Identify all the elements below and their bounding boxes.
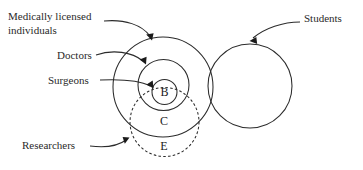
label-surgeons: Surgeons — [48, 74, 89, 86]
arrow-head-researchers — [123, 137, 130, 144]
label-medically-licensed-line1: Medically licensed — [8, 10, 92, 22]
leader-line-surgeons — [100, 80, 150, 86]
leader-line-researchers — [90, 140, 126, 147]
leader-line-doctors — [96, 52, 143, 61]
leader-line-students — [253, 22, 300, 38]
region-letter-e: E — [160, 139, 167, 153]
label-students: Students — [304, 12, 342, 24]
arrow-head-surgeons — [147, 80, 154, 88]
venn-diagram-canvas: Medically licensed individuals Doctors S… — [0, 0, 363, 170]
region-letter-b: B — [160, 85, 168, 99]
region-letter-c: C — [160, 114, 168, 128]
arrow-head-doctors — [140, 57, 147, 65]
circle-students — [208, 44, 292, 128]
euler-diagram-figure: Medically licensed individuals Doctors S… — [0, 0, 363, 170]
label-researchers: Researchers — [22, 139, 75, 151]
label-doctors: Doctors — [57, 49, 92, 61]
leader-line-medically-licensed — [104, 21, 150, 36]
label-medically-licensed-line2: individuals — [8, 24, 57, 36]
